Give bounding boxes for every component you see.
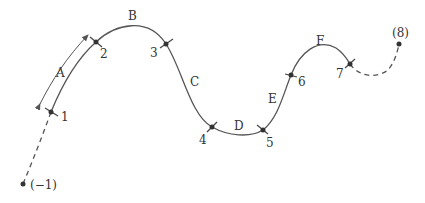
segment-label-a: A — [55, 66, 65, 80]
dashed-extension-end — [350, 44, 399, 75]
knot-7 — [345, 59, 355, 68]
knot-label-start: (−1) — [30, 178, 57, 192]
virtual-knot-start — [21, 182, 26, 187]
knot-label-end: (8) — [392, 26, 409, 40]
knot-label-7: 7 — [336, 67, 344, 81]
knot-label-3: 3 — [150, 46, 158, 60]
knot-label-2: 2 — [100, 47, 108, 61]
spline-diagram: (−1) 1 2 3 4 5 6 7 (8) A B C D E F — [0, 0, 425, 203]
segment-label-b: B — [128, 9, 137, 23]
virtual-knot-end — [397, 42, 402, 47]
knot-label-5: 5 — [266, 136, 274, 150]
dashed-extension-start — [23, 112, 51, 184]
knot-4 — [207, 122, 217, 132]
knot-3 — [160, 39, 173, 48]
knot-label-4: 4 — [199, 133, 207, 147]
segment-label-e: E — [268, 92, 277, 106]
segment-label-f: F — [316, 34, 324, 48]
knot-label-1: 1 — [61, 110, 69, 124]
segment-label-d: D — [234, 119, 244, 133]
knot-6 — [285, 73, 297, 78]
segment-label-c: C — [190, 75, 199, 89]
knot-label-6: 6 — [298, 75, 306, 89]
